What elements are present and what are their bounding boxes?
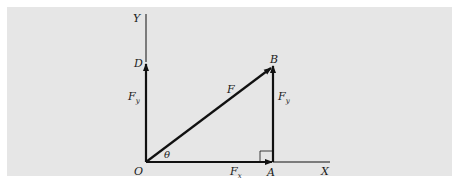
fx-label: Fx <box>229 165 242 180</box>
vector-f-label: F <box>226 83 235 96</box>
point-b-label: B <box>269 53 278 66</box>
point-d-label: D <box>133 57 143 70</box>
fy-right-label: Fy <box>277 90 291 105</box>
point-o-label: O <box>134 165 143 178</box>
fy-left-label: Fy <box>127 90 141 105</box>
f-vector-ob <box>146 68 271 162</box>
right-angle-marker <box>260 151 273 162</box>
x-axis-label: X <box>320 165 330 178</box>
y-axis-label: Y <box>133 12 142 25</box>
vector-diagram: Y X D B O A F θ Fy Fy Fx <box>0 0 459 191</box>
point-a-label: A <box>266 166 275 179</box>
angle-theta-label: θ <box>164 149 170 160</box>
